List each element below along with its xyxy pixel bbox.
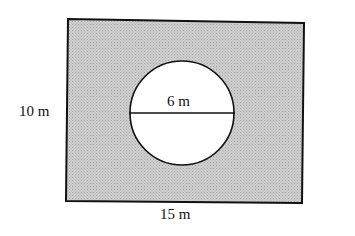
figure (0, 0, 355, 236)
rectangle-height-label: 10 m (19, 103, 49, 120)
rectangle-width-label: 15 m (160, 206, 190, 223)
circle-diameter-label: 6 m (167, 93, 190, 110)
